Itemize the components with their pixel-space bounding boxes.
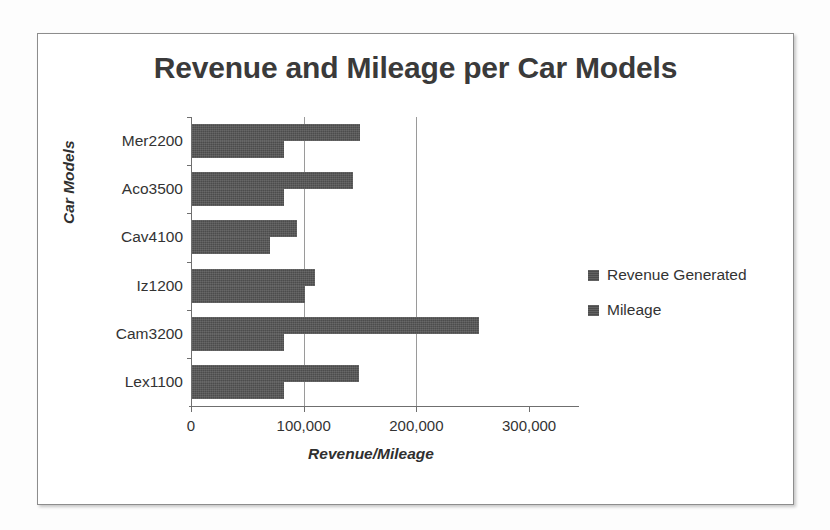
category-band: Lex1100 [192, 358, 552, 406]
category-band: Cav4100 [192, 213, 552, 261]
x-axis-tick [304, 406, 305, 412]
x-axis-tick [529, 406, 530, 412]
chart-frame: Revenue and Mileage per Car Models Car M… [37, 33, 794, 505]
bar[interactable] [192, 286, 305, 303]
bar[interactable] [192, 189, 284, 206]
category-band: Cam3200 [192, 310, 552, 358]
y-axis-tick [187, 165, 192, 166]
y-axis-tick [187, 358, 192, 359]
legend-label: Revenue Generated [607, 266, 747, 284]
y-axis-tick [187, 310, 192, 311]
x-axis-tick-label: 0 [187, 417, 195, 434]
x-axis-tick-label: 100,000 [277, 417, 331, 434]
bar[interactable] [192, 172, 353, 189]
category-band: Mer2200 [192, 117, 552, 165]
plot-area: 0100,000200,000300,000Mer2200Aco3500Cav4… [191, 117, 551, 406]
bar[interactable] [192, 124, 360, 141]
bar[interactable] [192, 365, 359, 382]
y-axis-tick [187, 213, 192, 214]
bar[interactable] [192, 334, 284, 351]
bar[interactable] [192, 382, 284, 399]
x-axis-tick-label: 200,000 [389, 417, 443, 434]
category-band: Aco3500 [192, 165, 552, 213]
bar[interactable] [192, 141, 284, 158]
category-label: Iz1200 [136, 277, 183, 295]
category-label: Aco3500 [122, 180, 183, 198]
legend-swatch-icon [588, 305, 599, 316]
category-label: Lex1100 [125, 373, 183, 391]
chart-title: Revenue and Mileage per Car Models [38, 51, 793, 85]
legend-label: Mileage [607, 301, 661, 319]
category-label: Mer2200 [122, 132, 183, 150]
category-label: Cav4100 [121, 228, 183, 246]
x-axis-tick [191, 406, 192, 412]
x-axis-line [189, 406, 579, 407]
chart-legend: Revenue Generated Mileage [588, 266, 747, 336]
y-axis-title: Car Models [60, 140, 78, 224]
y-axis-tick [187, 117, 192, 118]
bar[interactable] [192, 317, 479, 334]
legend-item-mileage[interactable]: Mileage [588, 301, 747, 319]
legend-swatch-icon [588, 270, 599, 281]
legend-item-revenue-generated[interactable]: Revenue Generated [588, 266, 747, 284]
bar[interactable] [192, 220, 297, 237]
bar[interactable] [192, 237, 270, 254]
bar[interactable] [192, 269, 315, 286]
scanned-page: Revenue and Mileage per Car Models Car M… [0, 0, 830, 530]
x-axis-tick [416, 406, 417, 412]
category-band: Iz1200 [192, 262, 552, 310]
plot-canvas: 0100,000200,000300,000Mer2200Aco3500Cav4… [191, 117, 551, 406]
y-axis-tick [187, 262, 192, 263]
x-axis-tick-label: 300,000 [502, 417, 556, 434]
x-axis-title: Revenue/Mileage [191, 445, 551, 463]
category-label: Cam3200 [116, 325, 183, 343]
